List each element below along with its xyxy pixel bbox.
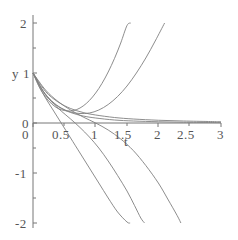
y-tick-label-1: 1 bbox=[23, 67, 30, 80]
plot-curve bbox=[33, 73, 130, 223]
y-tick-label-neg2: -2 bbox=[15, 217, 27, 230]
x-tick-label-1: 1 bbox=[91, 128, 98, 141]
y-tick-label-2: 2 bbox=[20, 17, 27, 30]
y-axis-ticks bbox=[33, 23, 37, 223]
x-tick-label-1-5: 1.5 bbox=[114, 128, 132, 141]
plot-curve bbox=[33, 73, 221, 122]
plot-curve bbox=[33, 23, 165, 114]
y-tick-label-neg1: -1 bbox=[15, 167, 27, 180]
plot-curve bbox=[33, 73, 221, 123]
plot-figure: 2 1 0 -1 -2 y 0 0.5 1 1.5 2 2.5 3 t bbox=[0, 0, 238, 240]
x-tick-label-0-5: 0.5 bbox=[52, 128, 70, 141]
plot-curve bbox=[33, 73, 181, 223]
y-axis-label: y bbox=[12, 67, 19, 80]
x-tick-label-2: 2 bbox=[154, 128, 161, 141]
x-tick-label-0: 0 bbox=[22, 128, 29, 141]
plot-canvas bbox=[0, 0, 238, 240]
x-axis-label: t bbox=[124, 135, 128, 148]
x-tick-label-3: 3 bbox=[217, 128, 224, 141]
x-tick-label-2-5: 2.5 bbox=[177, 128, 195, 141]
